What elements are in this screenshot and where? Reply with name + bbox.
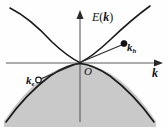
electron-state-label-subscript: e — [32, 80, 35, 87]
band-diagram-figure: E(k) k O kh ke — [0, 0, 168, 128]
electron-state-label: ke — [26, 75, 35, 88]
energy-axis-arrowhead — [77, 10, 84, 19]
electron-state-marker — [36, 77, 42, 83]
hole-state-label-subscript: h — [133, 47, 137, 54]
energy-axis-label: E(k) — [92, 11, 113, 23]
hole-state-label: kh — [127, 42, 136, 55]
band-diagram-canvas — [0, 0, 168, 128]
origin-label: O — [84, 66, 92, 77]
k-axis-label: k — [152, 67, 158, 79]
energy-axis-label-close-paren: ) — [109, 10, 113, 24]
